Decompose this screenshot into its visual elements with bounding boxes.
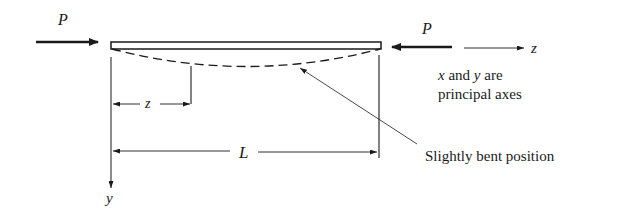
bent-position-label: Slightly bent position (425, 148, 555, 164)
y-axis-label: y (104, 190, 113, 206)
bent-curve (112, 49, 380, 67)
z-dimension-label: z (144, 96, 151, 111)
principal-axes-note-line2: principal axes (438, 86, 522, 102)
buckling-diagram: P P z x and y are principal axes y z L S… (0, 0, 623, 215)
left-load-label: P (57, 11, 68, 28)
principal-axes-note-line1: x and y are (437, 67, 503, 83)
bent-position-leader (300, 68, 417, 144)
right-load-label: P (421, 20, 432, 37)
L-dimension-label: L (238, 143, 248, 162)
z-axis-label: z (530, 40, 537, 56)
beam (111, 42, 381, 49)
